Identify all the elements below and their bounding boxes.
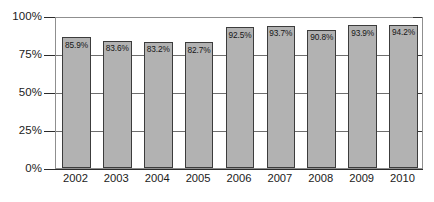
bar: 94.2%: [389, 25, 418, 168]
y-axis-tick-labels: 0%25%50%75%100%: [0, 0, 42, 202]
bar: 82.7%: [185, 42, 214, 168]
y-axis-tick-label: 75%: [0, 49, 42, 61]
bar-group: 82.7%: [179, 18, 220, 168]
bar-group: 83.6%: [97, 18, 138, 168]
x-axis-tick-label: 2003: [96, 173, 137, 184]
bar: 93.7%: [267, 26, 296, 168]
y-axis-tick-label: 50%: [0, 87, 42, 99]
x-axis-tick-label: 2008: [300, 173, 341, 184]
bar-value-label: 94.2%: [390, 28, 417, 36]
bar-group: 93.9%: [342, 18, 383, 168]
bar-value-label: 83.6%: [104, 44, 131, 52]
bar: 85.9%: [62, 37, 91, 168]
bar-value-label: 90.8%: [308, 33, 335, 41]
y-axis-tick-label: 100%: [0, 11, 42, 23]
x-axis-tick-labels: 200220032004200520062007200820092010: [55, 173, 423, 193]
bar-group: 90.8%: [301, 18, 342, 168]
bar: 83.6%: [103, 41, 132, 168]
y-axis-tick-mark: [44, 17, 55, 18]
y-axis-tick-mark: [44, 55, 55, 56]
bar: 90.8%: [307, 30, 336, 168]
y-axis-tick-label: 25%: [0, 125, 42, 137]
bar-group: 83.2%: [138, 18, 179, 168]
bar-group: 93.7%: [260, 18, 301, 168]
bar-value-label: 93.7%: [268, 29, 295, 37]
bar-value-label: 92.5%: [227, 31, 254, 39]
y-axis-tick-mark: [44, 131, 55, 132]
y-axis-tick-label: 0%: [0, 163, 42, 175]
bar: 83.2%: [144, 42, 173, 168]
x-axis-tick-label: 2007: [259, 173, 300, 184]
x-axis-line: [55, 169, 423, 170]
x-axis-tick-label: 2010: [382, 173, 423, 184]
x-axis-tick-label: 2002: [55, 173, 96, 184]
bars: 85.9%83.6%83.2%82.7%92.5%93.7%90.8%93.9%…: [56, 18, 422, 168]
bar-chart: 0%25%50%75%100% 85.9%83.6%83.2%82.7%92.5…: [0, 0, 434, 202]
bar-group: 85.9%: [56, 18, 97, 168]
y-axis-tick-mark: [44, 93, 55, 94]
bar-group: 94.2%: [383, 18, 424, 168]
bar-group: 92.5%: [220, 18, 261, 168]
bar-value-label: 82.7%: [186, 46, 213, 54]
plot-area: 85.9%83.6%83.2%82.7%92.5%93.7%90.8%93.9%…: [55, 17, 423, 169]
bar: 92.5%: [226, 27, 255, 168]
x-axis-tick-label: 2009: [341, 173, 382, 184]
x-axis-tick-label: 2005: [178, 173, 219, 184]
x-axis-tick-label: 2004: [137, 173, 178, 184]
y-axis-tick-mark: [44, 169, 55, 170]
bar-value-label: 85.9%: [63, 41, 90, 49]
x-axis-tick-label: 2006: [219, 173, 260, 184]
bar-value-label: 83.2%: [145, 45, 172, 53]
bar: 93.9%: [348, 25, 377, 168]
bar-value-label: 93.9%: [349, 29, 376, 37]
